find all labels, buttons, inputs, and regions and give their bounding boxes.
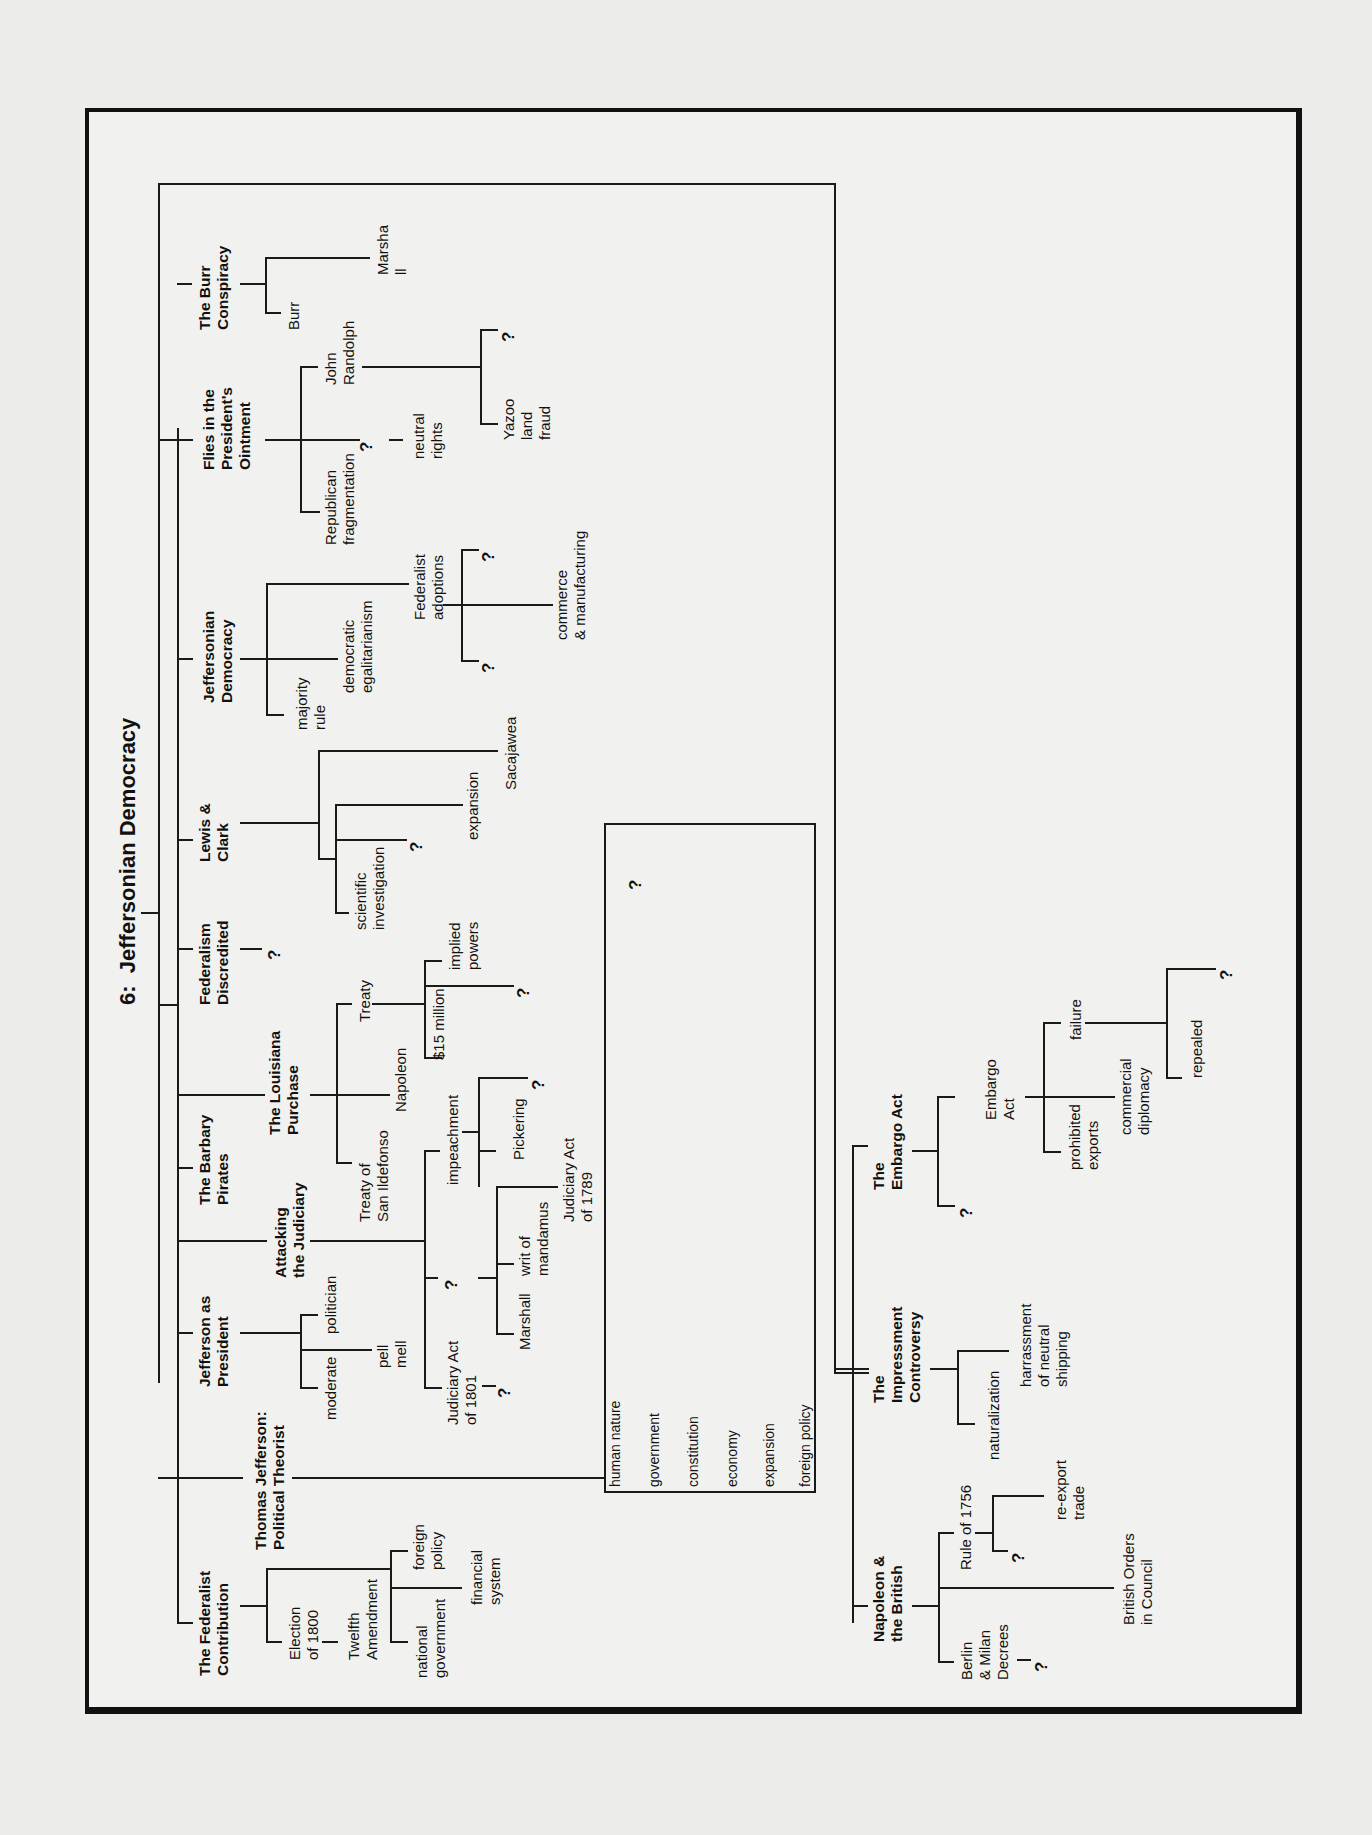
topic-impressment-controversy[interactable]: The Impressment Controversy bbox=[870, 1307, 924, 1403]
branch-line bbox=[266, 714, 284, 716]
branch-line bbox=[177, 1622, 193, 1624]
branch-line bbox=[478, 1277, 498, 1279]
node-commercial-diplomacy: commercial diplomacy bbox=[1117, 1058, 1153, 1135]
branch-line bbox=[937, 1096, 955, 1098]
question-mark: ? bbox=[480, 552, 498, 562]
topic-louisiana-purchase[interactable]: The Louisiana Purchase bbox=[266, 1031, 302, 1135]
branch-line bbox=[834, 1372, 869, 1374]
node-politician: politician bbox=[322, 1276, 340, 1334]
branch-line bbox=[1043, 1151, 1061, 1153]
topic-federalist-contribution[interactable]: The Federalist Contribution bbox=[196, 1571, 232, 1676]
node-commerce-manufacturing: commerce & manufacturing bbox=[553, 531, 589, 640]
branch-line bbox=[300, 1349, 372, 1351]
node-pell-mell: pell mell bbox=[374, 1340, 410, 1368]
node-judiciary-act-1801: Judiciary Act of 1801 bbox=[444, 1341, 480, 1425]
frame-top-line bbox=[158, 183, 836, 185]
topic-attacking-judiciary[interactable]: Attacking the Judiciary bbox=[272, 1182, 308, 1278]
topic-embargo-act[interactable]: The Embargo Act bbox=[870, 1094, 906, 1190]
branch-line bbox=[158, 1477, 243, 1479]
branch-line bbox=[975, 1532, 993, 1534]
node-naturalization: naturalization bbox=[985, 1371, 1003, 1460]
branch-line bbox=[496, 1186, 498, 1334]
branch-line bbox=[266, 1568, 268, 1642]
question-mark: ? bbox=[266, 950, 284, 960]
topic-barbary-pirates[interactable]: The Barbary Pirates bbox=[196, 1115, 232, 1205]
branch-line bbox=[266, 583, 268, 715]
node-british-orders-council: British Orders in Council bbox=[1120, 1533, 1156, 1625]
branch-line bbox=[240, 822, 320, 824]
branch-line bbox=[310, 1094, 390, 1096]
node-financial-system: financial system bbox=[468, 1550, 504, 1605]
branch-line bbox=[300, 366, 318, 368]
box-item-expansion: expansion bbox=[760, 1423, 778, 1487]
branch-line bbox=[930, 1368, 958, 1370]
theorist-box bbox=[604, 823, 816, 1493]
topic-federalism-discredited[interactable]: Federalism Discredited bbox=[196, 921, 232, 1005]
node-neutral-rights: neutral rights bbox=[410, 413, 446, 459]
node-berlin-milan-decrees: Berlin & Milan Decrees bbox=[958, 1624, 1012, 1680]
branch-line bbox=[482, 1385, 496, 1387]
branch-line bbox=[177, 1094, 265, 1096]
branch-line bbox=[177, 1167, 193, 1169]
topic-flies-ointment[interactable]: Flies in the President's Ointment bbox=[200, 387, 254, 470]
node-sacajawea: Sacajawea bbox=[502, 717, 520, 790]
branch-line bbox=[912, 1605, 940, 1607]
node-implied-powers: implied powers bbox=[446, 922, 482, 970]
branch-line bbox=[318, 750, 498, 752]
node-napoleon: Napoleon bbox=[392, 1048, 410, 1112]
branch-line bbox=[322, 1641, 338, 1643]
topic-jeffersonian-democracy[interactable]: Jeffersonian Democracy bbox=[200, 611, 236, 703]
branch-line bbox=[390, 1550, 392, 1642]
branch-line bbox=[266, 583, 409, 585]
node-re-export-trade: re-export trade bbox=[1052, 1460, 1088, 1520]
foreign-trunk-line bbox=[852, 1145, 854, 1623]
node-election-1800: Election of 1800 bbox=[286, 1607, 322, 1660]
question-mark: ? bbox=[443, 1280, 461, 1290]
node-democratic-egalitarianism: democratic egalitarianism bbox=[340, 600, 376, 693]
node-expansion: expansion bbox=[464, 772, 482, 840]
branch-line bbox=[1166, 968, 1216, 970]
topic-political-theorist[interactable]: Thomas Jefferson: Political Theorist bbox=[252, 1411, 288, 1550]
branch-line bbox=[265, 312, 281, 314]
branch-line bbox=[335, 804, 337, 914]
topic-burr-conspiracy[interactable]: The Burr Conspiracy bbox=[196, 246, 232, 330]
question-mark: ? bbox=[408, 842, 426, 852]
box-item-foreign-policy: foreign policy bbox=[796, 1405, 814, 1488]
node-yazoo-land-fraud: Yazoo land fraud bbox=[500, 399, 554, 440]
branch-line bbox=[480, 423, 498, 425]
inner-trunk-line bbox=[177, 428, 179, 1623]
question-mark: ? bbox=[958, 1208, 976, 1218]
branch-line bbox=[372, 1003, 426, 1005]
node-twelfth-amendment: Twelfth Amendment bbox=[345, 1579, 381, 1660]
node-burr: Burr bbox=[285, 302, 303, 330]
branch-line bbox=[240, 948, 262, 950]
outer-trunk-line bbox=[158, 183, 160, 1383]
topic-napoleon-british[interactable]: Napoleon & the British bbox=[870, 1556, 906, 1642]
topic-jefferson-president[interactable]: Jefferson as President bbox=[196, 1296, 232, 1387]
branch-line bbox=[424, 960, 426, 1058]
branch-line bbox=[461, 660, 479, 662]
branch-line bbox=[389, 439, 403, 441]
box-item-constitution: constitution bbox=[684, 1416, 702, 1487]
node-scientific-investigation: scientific investigation bbox=[352, 847, 388, 930]
branch-line bbox=[390, 1641, 408, 1643]
box-item-human-nature: human nature bbox=[606, 1401, 624, 1487]
branch-line bbox=[1166, 1077, 1182, 1079]
branch-line bbox=[957, 1350, 1009, 1352]
branch-line bbox=[938, 1661, 954, 1663]
box-item-economy: economy bbox=[723, 1430, 741, 1487]
question-mark: ? bbox=[358, 442, 376, 452]
node-repealed: repealed bbox=[1188, 1020, 1206, 1078]
branch-line bbox=[177, 658, 193, 660]
node-judiciary-act-1789: Judiciary Act of 1789 bbox=[560, 1138, 596, 1222]
branch-line bbox=[240, 658, 338, 660]
topic-lewis-clark[interactable]: Lewis & Clark bbox=[196, 803, 232, 862]
branch-line bbox=[480, 329, 482, 424]
node-rule-1756: Rule of 1756 bbox=[957, 1485, 975, 1570]
branch-line bbox=[390, 1550, 408, 1552]
branch-line bbox=[461, 549, 463, 661]
node-embargo-act: Embargo Act bbox=[982, 1059, 1018, 1120]
branch-line bbox=[300, 366, 302, 512]
branch-line bbox=[300, 511, 320, 513]
branch-line bbox=[240, 1332, 302, 1334]
